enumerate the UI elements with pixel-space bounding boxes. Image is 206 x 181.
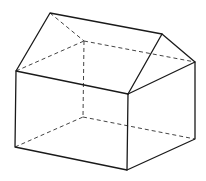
hidden-edges xyxy=(15,13,195,147)
hidden-edge-back-to-right xyxy=(84,41,195,62)
house-prism-diagram xyxy=(0,0,206,181)
edge-front-to-right xyxy=(128,62,195,94)
hidden-edge-left-to-back xyxy=(16,41,84,71)
edge-left-to-front xyxy=(16,71,128,94)
hidden-edge-roof-to-back xyxy=(50,13,84,41)
hidden-edge-back-vertical xyxy=(83,41,84,117)
edge-roof-to-front xyxy=(128,34,162,94)
visible-outline xyxy=(15,13,195,170)
hidden-edge-bottom-right xyxy=(83,117,195,139)
visible-edges xyxy=(15,13,195,170)
hidden-edge-bottom-left xyxy=(15,117,83,147)
edge-front-vertical xyxy=(127,94,128,170)
